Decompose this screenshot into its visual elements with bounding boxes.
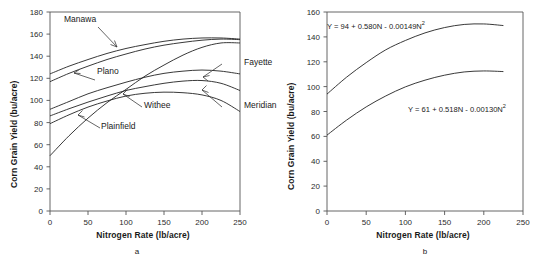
annotation-plano: Plano xyxy=(97,66,119,76)
svg-text:150: 150 xyxy=(438,218,452,227)
svg-text:0: 0 xyxy=(316,207,321,216)
lower-curve-equation-exponent: 2 xyxy=(503,103,506,109)
svg-text:140: 140 xyxy=(30,52,44,61)
svg-text:120: 120 xyxy=(30,74,44,83)
svg-text:50: 50 xyxy=(84,218,93,227)
annotation-withee: Withee xyxy=(144,100,170,110)
svg-text:60: 60 xyxy=(34,141,43,150)
lower-curve-equation: Y = 61 + 0.518N - 0.00130N2 xyxy=(408,103,506,114)
svg-text:150: 150 xyxy=(157,218,171,227)
svg-text:160: 160 xyxy=(30,30,44,39)
panel-b-x-ticks: 0 50 100 150 200 250 xyxy=(325,211,530,227)
svg-text:0: 0 xyxy=(325,218,330,227)
svg-text:140: 140 xyxy=(307,33,321,42)
svg-text:80: 80 xyxy=(311,108,320,117)
panel-a-x-ticks: 0 50 100 150 200 250 xyxy=(48,211,247,227)
svg-text:20: 20 xyxy=(34,185,43,194)
figure-container: Corn Grain Yield (bu/acre) 180 160 xyxy=(0,0,540,266)
svg-text:250: 250 xyxy=(516,218,530,227)
annotation-manawa: Manawa xyxy=(64,14,96,24)
svg-text:100: 100 xyxy=(119,218,133,227)
svg-text:50: 50 xyxy=(362,218,371,227)
panel-b-x-axis-label: Nitrogen Rate (lb/acre) xyxy=(288,230,540,240)
svg-text:20: 20 xyxy=(311,182,320,191)
panel-b-curves xyxy=(327,24,503,135)
lower-curve-equation-text: Y = 61 + 0.518N - 0.00130N xyxy=(408,105,503,114)
svg-text:80: 80 xyxy=(34,119,43,128)
panel-a-leader-arrows xyxy=(74,27,222,128)
svg-text:60: 60 xyxy=(311,132,320,141)
svg-text:200: 200 xyxy=(477,218,491,227)
svg-text:0: 0 xyxy=(39,207,44,216)
upper-curve-equation-text: Y = 94 + 0.580N - 0.00149N xyxy=(327,22,422,31)
panel-a-x-axis-label: Nitrogen Rate (lb/acre) xyxy=(8,230,278,240)
panel-b-plot: 160 140 120 100 80 60 40 20 0 0 50 100 xyxy=(270,0,540,266)
svg-text:100: 100 xyxy=(399,218,413,227)
curve-manawa xyxy=(50,38,240,74)
upper-curve-equation: Y = 94 + 0.580N - 0.00149N2 xyxy=(327,20,425,31)
svg-text:160: 160 xyxy=(307,8,321,17)
panel-b-y-ticks: 160 140 120 100 80 60 40 20 0 xyxy=(307,8,327,216)
svg-text:0: 0 xyxy=(48,218,53,227)
svg-text:40: 40 xyxy=(34,163,43,172)
svg-text:200: 200 xyxy=(195,218,209,227)
panel-a-caption: a xyxy=(2,247,272,256)
panel-a-axes xyxy=(50,12,240,211)
svg-text:180: 180 xyxy=(30,8,44,17)
svg-text:40: 40 xyxy=(311,157,320,166)
panel-a-y-ticks: 180 160 140 120 100 80 60 40 20 0 xyxy=(30,8,50,216)
panel-a: Corn Grain Yield (bu/acre) 180 160 xyxy=(0,0,270,266)
svg-text:120: 120 xyxy=(307,58,321,67)
curve-plano xyxy=(50,39,240,82)
annotation-plainfield: Plainfield xyxy=(101,121,136,131)
panel-a-curves xyxy=(50,38,240,156)
svg-text:100: 100 xyxy=(30,96,44,105)
panel-b: Corn Grain Yield (bu/acre) 160 140 120 1… xyxy=(270,0,540,266)
svg-text:250: 250 xyxy=(233,218,247,227)
upper-curve-equation-exponent: 2 xyxy=(422,20,425,26)
annotation-fayette: Fayette xyxy=(244,57,272,67)
panel-b-caption: b xyxy=(290,247,540,256)
svg-text:100: 100 xyxy=(307,83,321,92)
panel-a-plot: 180 160 140 120 100 80 60 40 20 0 0 xyxy=(0,0,270,266)
